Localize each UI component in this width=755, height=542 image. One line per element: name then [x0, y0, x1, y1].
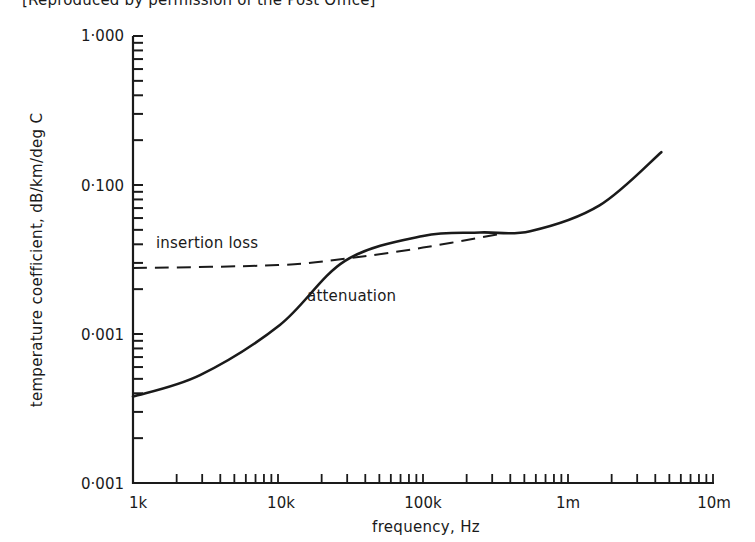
y-tick-label: 0·100: [81, 177, 124, 195]
x-axis-ticks: [177, 474, 713, 483]
x-tick-label: 100k: [404, 494, 442, 512]
y-axis-ticks: [133, 36, 143, 438]
y-tick-label: 0·001: [81, 475, 124, 493]
y-tick-labels: 0·001 0·001 0·100 1·000: [81, 27, 124, 493]
attenuation-label: attenuation: [307, 287, 396, 305]
insertion-loss-label: insertion loss: [156, 234, 258, 252]
y-axis-title: temperature coefficient, dB/km/deg C: [28, 113, 46, 408]
y-tick-label: 0·001: [81, 326, 124, 344]
x-axis-title: frequency, Hz: [372, 518, 480, 536]
attenuation-curve: [133, 152, 661, 396]
x-tick-label: 1k: [129, 494, 148, 512]
x-tick-label: 1m: [556, 494, 580, 512]
y-tick-label: 1·000: [81, 27, 124, 45]
x-tick-label: 10m: [697, 494, 731, 512]
x-tick-labels: 1k 10k 100k 1m 10m: [129, 494, 731, 512]
chart: 0·001 0·001 0·100 1·000 1k 10k 100k 1m 1…: [0, 0, 755, 542]
x-tick-label: 10k: [267, 494, 295, 512]
